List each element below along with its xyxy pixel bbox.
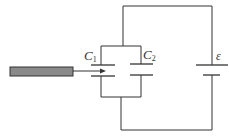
c1-label: C1 (84, 48, 97, 64)
c2-label: C2 (143, 47, 156, 63)
branch-bottom-wire (101, 75, 141, 97)
arrow-head-icon (100, 69, 106, 74)
bottom-wire (121, 75, 212, 130)
emf-label: ε (216, 49, 221, 63)
dielectric-slab (10, 67, 73, 76)
top-wire (123, 6, 212, 65)
branch-top-wire (101, 46, 141, 65)
circuit-diagram: C1 C2 ε (0, 0, 229, 139)
